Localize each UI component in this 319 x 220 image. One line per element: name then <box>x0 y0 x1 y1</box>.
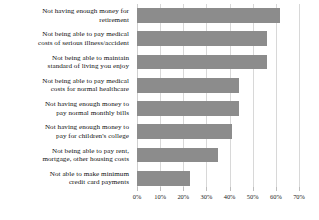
x-tick-label: 10% <box>154 193 166 200</box>
bar-row <box>137 120 299 143</box>
bar-row <box>137 4 299 27</box>
category-label-line: mortgage, other housing costs <box>0 155 129 163</box>
bar[interactable] <box>137 78 239 93</box>
category-label-line: credit card payments <box>0 178 129 186</box>
category-axis-labels: Not having enough money forretirementNot… <box>0 4 133 190</box>
category-label-line: standard of living you enjoy <box>0 62 129 70</box>
category-label-line: pay normal monthly bills <box>0 109 129 117</box>
bar[interactable] <box>137 171 190 186</box>
category-label: Not able to make minimumcredit card paym… <box>0 170 129 187</box>
bar-row <box>137 167 299 190</box>
tick-mark-50 <box>253 187 254 191</box>
category-label: Not having enough money forretirement <box>0 7 129 24</box>
bar-row <box>137 97 299 120</box>
x-tick-label: 50% <box>247 193 259 200</box>
bar-chart: Not having enough money forretirementNot… <box>0 0 319 220</box>
category-label-line: costs for normal healthcare <box>0 85 129 93</box>
category-label-line: Not being able to pay rent, <box>0 147 129 155</box>
category-label-line: pay for children's college <box>0 132 129 140</box>
x-axis-ticks: 0%10%20%30%40%50%60%70% <box>137 191 299 205</box>
tick-mark-30 <box>206 187 207 191</box>
category-label-line: Not being able to pay medical <box>0 30 129 38</box>
tick-mark-60 <box>276 187 277 191</box>
category-label: Not having enough money topay normal mon… <box>0 100 129 117</box>
bar-row <box>137 74 299 97</box>
x-tick-label: 20% <box>177 193 189 200</box>
category-label-line: Not having enough money for <box>0 7 129 15</box>
category-label-line: costs of serious illness/accident <box>0 39 129 47</box>
bar[interactable] <box>137 55 267 70</box>
category-label: Not being able to pay medicalcosts for n… <box>0 77 129 94</box>
category-label-line: retirement <box>0 16 129 24</box>
category-label-line: Not able to make minimum <box>0 170 129 178</box>
x-tick-label: 30% <box>201 193 213 200</box>
bar[interactable] <box>137 101 239 116</box>
tick-mark-20 <box>183 187 184 191</box>
bar[interactable] <box>137 8 280 23</box>
bar-row <box>137 27 299 50</box>
category-label: Not having enough money topay for childr… <box>0 123 129 140</box>
category-label-line: Not being able to maintain <box>0 54 129 62</box>
tick-mark-10 <box>160 187 161 191</box>
category-label: Not being able to pay rent,mortgage, oth… <box>0 147 129 164</box>
x-tick-label: 70% <box>293 193 305 200</box>
category-label-line: Not having enough money to <box>0 100 129 108</box>
tick-mark-70 <box>299 187 300 191</box>
bar[interactable] <box>137 148 218 163</box>
x-tick-label: 40% <box>224 193 236 200</box>
bar-row <box>137 51 299 74</box>
category-label: Not being able to maintainstandard of li… <box>0 54 129 71</box>
category-label-line: Not being able to pay medical <box>0 77 129 85</box>
category-label-line: Not having enough money to <box>0 123 129 131</box>
x-tick-label: 0% <box>133 193 142 200</box>
bar-row <box>137 144 299 167</box>
bar[interactable] <box>137 124 232 139</box>
tick-mark-0 <box>137 187 138 191</box>
category-label: Not being able to pay medicalcosts of se… <box>0 30 129 47</box>
bar[interactable] <box>137 31 267 46</box>
gridline-70 <box>299 4 300 190</box>
plot-area <box>137 4 299 190</box>
chart-plot-wrapper: Not having enough money forretirementNot… <box>0 0 319 220</box>
tick-mark-40 <box>230 187 231 191</box>
x-tick-label: 60% <box>270 193 282 200</box>
